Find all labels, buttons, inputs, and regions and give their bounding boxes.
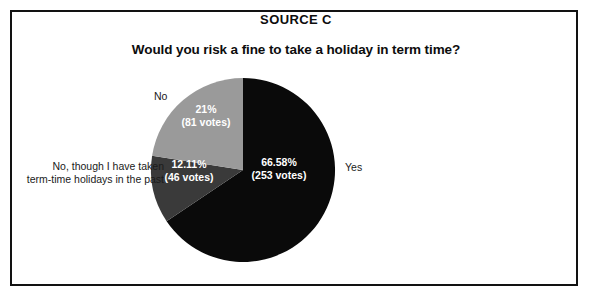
- slice-value-no-percent: 21%: [195, 103, 217, 115]
- slice-value-yes-percent: 66.58%: [261, 156, 297, 168]
- pie-label-no-though-term-time: No, though I have taken term-time holida…: [14, 160, 164, 185]
- pie-label-yes: Yes: [345, 161, 362, 174]
- slice-value-no-though-votes: (46 votes): [164, 171, 213, 183]
- slice-value-no-votes: (81 votes): [181, 116, 230, 128]
- slice-value-yes-votes: (253 votes): [252, 169, 307, 181]
- slice-value-no-though-percent: 12.11%: [171, 158, 207, 170]
- pie-label-no: No: [154, 90, 167, 103]
- pie-label-no-though-line1: No, though I have taken: [14, 160, 164, 173]
- pie-label-no-though-line2: term-time holidays in the past: [14, 173, 164, 186]
